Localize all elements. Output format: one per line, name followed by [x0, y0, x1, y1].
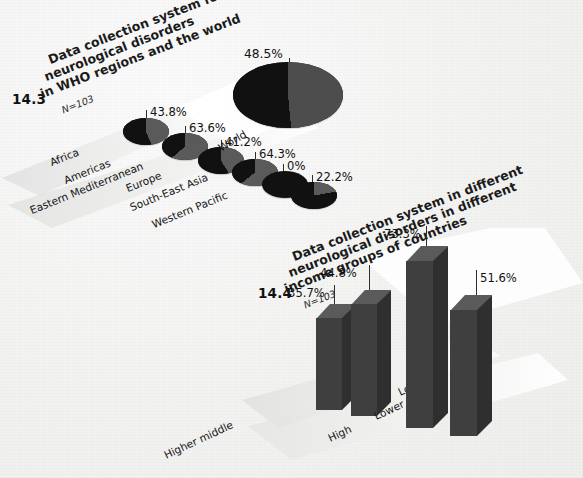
bar-higher-middle	[406, 246, 448, 428]
figure-14-3-sample-size: N=103	[60, 93, 95, 115]
bar-high	[450, 295, 492, 436]
bar-higher-middle-side	[433, 246, 448, 428]
figure-14-4: 14.4 Data collection system in different…	[238, 228, 583, 478]
bar-lower-middle-front	[351, 304, 377, 416]
bar-lower-middle-side	[377, 290, 391, 416]
value-label-world: 48.5%	[244, 47, 283, 61]
pie-chart-world	[233, 62, 343, 128]
bar-high-front	[450, 310, 477, 436]
category-label-africa: Africa	[48, 146, 81, 168]
pie-chart-western-pacific	[291, 182, 337, 209]
value-label-africa: 43.8%	[150, 105, 187, 119]
figure-14-3: 14.3 Data collection system for neurolog…	[0, 0, 340, 235]
leader-line-high	[476, 270, 477, 296]
bar-lower-middle	[351, 290, 391, 416]
value-label-high: 51.6%	[480, 271, 517, 285]
bar-higher-middle-front	[406, 261, 433, 428]
bar-low-front	[316, 318, 342, 410]
value-label-lower-middle: 44.8%	[320, 266, 357, 280]
category-label-high: High	[326, 423, 353, 444]
leader-line-higher-middle	[426, 226, 427, 248]
value-label-higher-middle: 73.3%	[384, 227, 421, 241]
pie-slice-western-pacific	[291, 182, 337, 209]
category-label-higher-middle: Higher middle	[162, 418, 235, 460]
value-label-low: 35.7%	[288, 286, 325, 300]
pie-slice-world	[233, 62, 343, 128]
leader-line-lower-middle	[369, 265, 370, 291]
bar-high-side	[477, 295, 492, 436]
bar-low	[316, 304, 356, 410]
